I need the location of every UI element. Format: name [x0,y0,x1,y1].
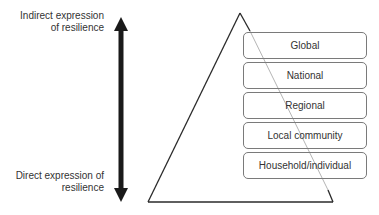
direct-label-line-1: Direct expression of [2,170,104,182]
indirect-expression-label: Indirect expression of resilience [2,10,104,34]
level-box-global: Global [243,32,367,59]
double-arrow-icon [114,17,128,202]
direct-label-line-2: resilience [2,182,104,194]
level-box-local-community: Local community [243,122,367,149]
level-box-national: National [243,62,367,89]
level-box-regional: Regional [243,92,367,119]
direct-expression-label: Direct expression of resilience [2,170,104,194]
indirect-label-line-1: Indirect expression [2,10,104,22]
indirect-label-line-2: of resilience [2,22,104,34]
level-box-household-individual: Household/individual [243,152,367,179]
